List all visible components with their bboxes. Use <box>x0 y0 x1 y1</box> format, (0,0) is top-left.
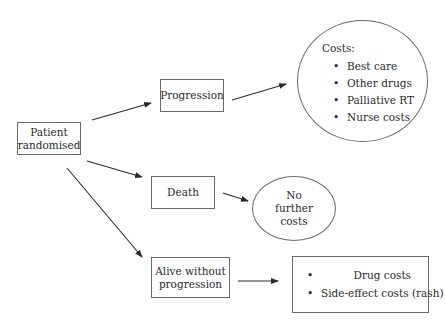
node-label: Progression <box>160 89 224 102</box>
cost-item: Other drugs <box>333 77 414 90</box>
node-label-line: Patient <box>30 126 68 139</box>
node-alive-costs: Drug costs Side-effect costs (rash) <box>292 256 429 313</box>
arrow-progression-to-costs <box>232 84 286 100</box>
alive-costs-list: Drug costs Side-effect costs (rash) <box>307 269 444 300</box>
node-death: Death <box>151 176 215 209</box>
costs-heading: Costs: <box>322 42 355 55</box>
node-label-line: further <box>275 202 313 215</box>
arrow-root-to-death <box>87 161 142 177</box>
node-label-line: randomised <box>18 139 81 152</box>
cost-item: Palliative RT <box>333 94 414 107</box>
costs-list: Best care Other drugs Palliative RT Nurs… <box>333 60 414 124</box>
node-progression-costs: Costs: Best care Other drugs Palliative … <box>297 20 428 142</box>
cost-item: Nurse costs <box>333 111 414 124</box>
node-label: Death <box>167 186 199 199</box>
node-label-line: progression <box>159 278 222 291</box>
node-alive-without-progression: Alive without progression <box>151 257 230 298</box>
node-patient-randomised: Patient randomised <box>17 122 81 155</box>
cost-item: Best care <box>333 60 414 73</box>
arrow-death-to-no-costs <box>223 193 248 201</box>
node-label-line: No <box>286 189 302 202</box>
node-label-line: costs <box>280 215 307 228</box>
node-label-line: Alive without <box>155 265 225 278</box>
arrow-root-to-alive <box>67 168 142 257</box>
node-no-further-costs: No further costs <box>252 176 336 241</box>
node-progression: Progression <box>160 79 224 112</box>
cost-item: Side-effect costs (rash) <box>307 287 444 300</box>
arrow-root-to-progression <box>92 103 151 120</box>
cost-item: Drug costs <box>307 269 444 282</box>
